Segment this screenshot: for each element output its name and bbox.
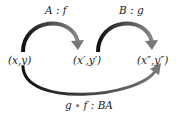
arrow-b-g xyxy=(98,23,158,52)
edge-label-a-f: A : f xyxy=(45,5,67,16)
arrowhead-icon xyxy=(145,40,158,50)
node-x1-y1: (x′,y′) xyxy=(73,55,101,66)
composition-diagram: A : f B : g g ∘ f : BA (x,y) (x′,y′) (x″… xyxy=(0,0,181,115)
arrow-a-f xyxy=(23,23,84,52)
node-x2-y2: (x″,y″) xyxy=(137,55,168,66)
edge-label-b-g: B : g xyxy=(119,5,144,16)
edge-label-g-f-ba: g ∘ f : BA xyxy=(65,100,113,111)
arrow-g-f-ba xyxy=(23,63,161,94)
arrowhead-icon xyxy=(71,40,84,50)
node-x-y: (x,y) xyxy=(8,55,31,66)
